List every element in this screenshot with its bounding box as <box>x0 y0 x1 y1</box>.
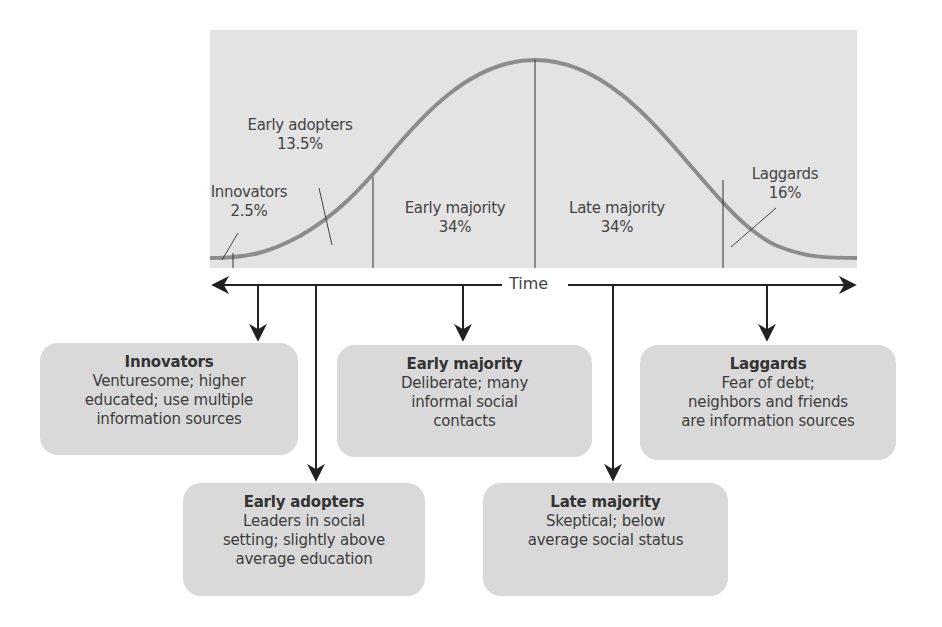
segment-label-late-majority: Late majority 34% <box>542 199 692 237</box>
segment-name: Early majority <box>380 199 530 218</box>
segment-label-innovators: Innovators 2.5% <box>206 183 292 221</box>
box-desc-line: Leaders in social <box>183 512 425 531</box>
box-title: Early adopters <box>183 493 425 512</box>
box-desc-line: Fear of debt; <box>640 374 896 393</box>
box-early-adopters: Early adopters Leaders in social setting… <box>183 483 425 596</box>
box-desc-line: Skeptical; below <box>483 512 728 531</box>
segment-name: Laggards <box>735 165 835 184</box>
segment-label-early-majority: Early majority 34% <box>380 199 530 237</box>
box-desc-line: informal social <box>337 393 592 412</box>
box-innovators: Innovators Venturesome; higher educated;… <box>40 343 298 455</box>
segment-label-early-adopters: Early adopters 13.5% <box>235 116 365 154</box>
box-desc-line: setting; slightly above <box>183 531 425 550</box>
time-axis-label: Time <box>503 274 554 293</box>
segment-label-laggards: Laggards 16% <box>735 165 835 203</box>
box-desc-line: average social status <box>483 531 728 550</box>
box-desc-line: neighbors and friends <box>640 393 896 412</box>
box-desc-line: Deliberate; many <box>337 374 592 393</box>
segment-percent: 13.5% <box>235 135 365 154</box>
diagram-graphics <box>0 0 942 627</box>
box-early-majority: Early majority Deliberate; many informal… <box>337 345 592 457</box>
box-desc-line: educated; use multiple <box>40 391 298 410</box>
box-title: Early majority <box>337 355 592 374</box>
box-desc-line: are information sources <box>640 412 896 431</box>
segment-name: Early adopters <box>235 116 365 135</box>
diffusion-diagram: Time Early adopters 13.5% Innovators 2.5… <box>0 0 942 627</box>
segment-name: Innovators <box>206 183 292 202</box>
segment-percent: 16% <box>735 184 835 203</box>
segment-percent: 34% <box>380 218 530 237</box>
box-desc-line: average education <box>183 550 425 569</box>
segment-name: Late majority <box>542 199 692 218</box>
box-title: Laggards <box>640 355 896 374</box>
segment-percent: 2.5% <box>206 202 292 221</box>
box-laggards: Laggards Fear of debt; neighbors and fri… <box>640 345 896 460</box>
box-title: Late majority <box>483 493 728 512</box>
box-desc-line: Venturesome; higher <box>40 372 298 391</box>
box-desc-line: contacts <box>337 412 592 431</box>
segment-percent: 34% <box>542 218 692 237</box>
box-late-majority: Late majority Skeptical; below average s… <box>483 483 728 596</box>
box-desc-line: information sources <box>40 410 298 429</box>
box-title: Innovators <box>40 353 298 372</box>
